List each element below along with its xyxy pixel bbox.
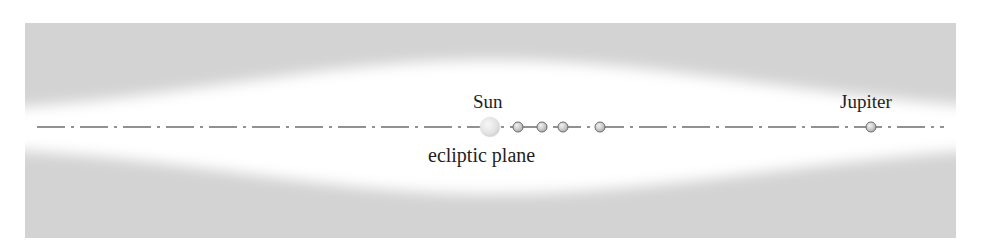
diagram-canvas bbox=[0, 0, 981, 248]
ecliptic-plane-label: ecliptic plane bbox=[428, 145, 535, 165]
jupiter-icon bbox=[866, 122, 876, 132]
mercury-icon bbox=[513, 122, 523, 132]
jupiter-label: Jupiter bbox=[840, 92, 892, 111]
venus-icon bbox=[537, 122, 547, 132]
sun-label: Sun bbox=[473, 92, 503, 111]
mars-icon bbox=[595, 122, 605, 132]
earth-icon bbox=[558, 122, 568, 132]
sun-icon bbox=[480, 117, 500, 137]
ecliptic-plane-diagram: Sun Jupiter ecliptic plane bbox=[0, 0, 981, 248]
